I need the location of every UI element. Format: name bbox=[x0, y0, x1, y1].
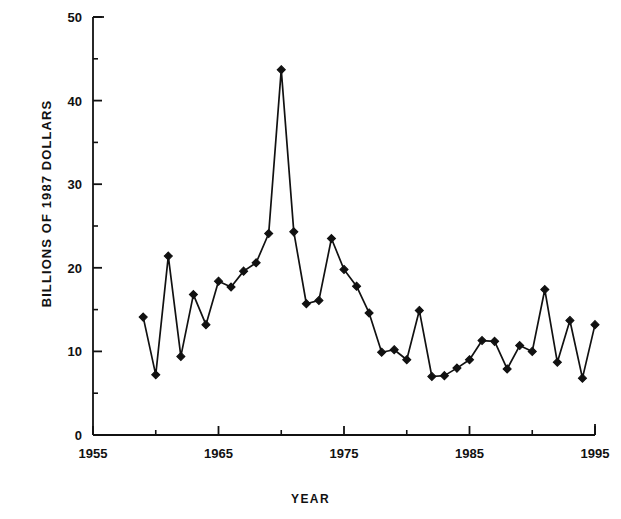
data-point-marker bbox=[215, 277, 223, 285]
data-point-marker bbox=[265, 230, 273, 238]
data-point-marker bbox=[516, 342, 524, 350]
data-point-marker bbox=[491, 337, 499, 345]
data-series-line bbox=[143, 70, 595, 378]
data-point-marker bbox=[315, 296, 323, 304]
data-point-marker bbox=[578, 374, 586, 382]
y-axis-tick-label: 20 bbox=[68, 261, 82, 276]
data-point-marker bbox=[164, 252, 172, 260]
x-axis-tick-label: 1985 bbox=[455, 446, 484, 461]
x-axis-tick-label: 1965 bbox=[204, 446, 233, 461]
x-axis-tick-label: 1975 bbox=[330, 446, 359, 461]
data-point-marker bbox=[528, 347, 536, 355]
data-point-marker bbox=[202, 321, 210, 329]
data-point-marker bbox=[503, 365, 511, 373]
data-point-marker bbox=[139, 313, 147, 321]
data-point-marker bbox=[428, 372, 436, 380]
axis-spines bbox=[93, 17, 595, 435]
data-point-marker bbox=[553, 358, 561, 366]
y-axis-tick-label-group: 01020304050 bbox=[68, 10, 82, 443]
data-point-marker bbox=[566, 316, 574, 324]
data-point-marker bbox=[177, 352, 185, 360]
data-series-markers bbox=[139, 66, 599, 382]
y-axis-tick-label: 50 bbox=[68, 10, 82, 25]
data-point-marker bbox=[415, 306, 423, 314]
data-point-marker bbox=[277, 66, 285, 74]
line-chart-plot: 01020304050 19551965197519851995 bbox=[0, 0, 621, 519]
data-point-marker bbox=[290, 228, 298, 236]
chart-figure: BILLIONS OF 1987 DOLLARS YEAR 0102030405… bbox=[0, 0, 621, 519]
data-point-marker bbox=[591, 321, 599, 329]
data-point-marker bbox=[365, 309, 373, 317]
data-point-marker bbox=[541, 286, 549, 294]
data-point-marker bbox=[189, 291, 197, 299]
x-axis-tick-label: 1995 bbox=[581, 446, 610, 461]
data-point-marker bbox=[440, 372, 448, 380]
x-axis-tick-label-group: 19551965197519851995 bbox=[79, 446, 610, 461]
y-axis-tick-label: 30 bbox=[68, 177, 82, 192]
x-axis-tick-label: 1955 bbox=[79, 446, 108, 461]
data-point-marker bbox=[327, 235, 335, 243]
y-axis-tick-label: 40 bbox=[68, 94, 82, 109]
y-axis-tick-label: 0 bbox=[75, 428, 82, 443]
x-axis-major-tick-group bbox=[93, 426, 595, 435]
data-point-marker bbox=[378, 348, 386, 356]
y-axis-tick-label: 10 bbox=[68, 344, 82, 359]
data-point-marker bbox=[302, 300, 310, 308]
data-point-marker bbox=[152, 371, 160, 379]
